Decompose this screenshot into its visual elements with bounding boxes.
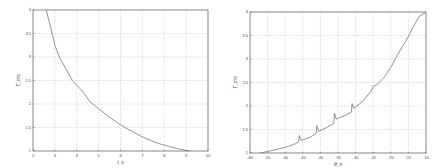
x-tick-label: -50 bbox=[282, 155, 289, 160]
x-tick-label: -55 bbox=[265, 155, 272, 160]
x-tick-label: 8 bbox=[163, 153, 166, 158]
x-tick-label: 2 bbox=[32, 153, 35, 158]
y-tick-label: 2.5 bbox=[25, 78, 31, 83]
x-tick-label: 7 bbox=[141, 153, 144, 158]
y-tick-label: 3.5 bbox=[25, 31, 31, 36]
grid bbox=[33, 10, 208, 151]
y-tick-label: 2.5 bbox=[242, 80, 248, 85]
x-tick-label: -20 bbox=[388, 155, 395, 160]
right-chart: -60-55-50-45-40-35-30-25-20-15-1011.522.… bbox=[232, 9, 430, 167]
x-tick-label: 6 bbox=[119, 153, 122, 158]
figure: 234567891011.522.533.54t_sT_ms -60-55-50… bbox=[0, 0, 446, 168]
y-tick-label: 3 bbox=[29, 54, 32, 59]
x-tick-label: -25 bbox=[370, 155, 377, 160]
x-axis-label: t_s bbox=[117, 159, 124, 165]
y-tick-label: 3.5 bbox=[242, 33, 248, 38]
x-tick-label: -35 bbox=[335, 155, 342, 160]
x-tick-label: 4 bbox=[76, 153, 79, 158]
y-tick-label: 4 bbox=[29, 7, 32, 12]
x-tick-label: 5 bbox=[98, 153, 101, 158]
y-tick-label: 1.5 bbox=[25, 125, 31, 130]
x-tick-label: -30 bbox=[353, 155, 360, 160]
x-tick-label: 3 bbox=[54, 153, 57, 158]
x-tick-label: 9 bbox=[185, 153, 188, 158]
y-axis-label: T_ms bbox=[15, 74, 21, 87]
grid bbox=[250, 12, 426, 153]
x-tick-label: -10 bbox=[423, 155, 430, 160]
y-axis-label: T_ms bbox=[232, 76, 238, 89]
x-axis-label: θ_s bbox=[334, 161, 342, 167]
x-tick-label: -40 bbox=[318, 155, 325, 160]
y-tick-label: 3 bbox=[246, 56, 249, 61]
x-tick-label: -60 bbox=[247, 155, 254, 160]
x-tick-label: 10 bbox=[206, 153, 211, 158]
y-tick-label: 2 bbox=[29, 101, 32, 106]
left-chart: 234567891011.522.533.54t_sT_ms bbox=[15, 7, 211, 165]
y-tick-label: 4 bbox=[246, 9, 249, 14]
y-tick-label: 2 bbox=[246, 103, 249, 108]
x-tick-label: -45 bbox=[300, 155, 307, 160]
y-tick-label: 1.5 bbox=[242, 127, 248, 132]
x-tick-label: -15 bbox=[406, 155, 413, 160]
